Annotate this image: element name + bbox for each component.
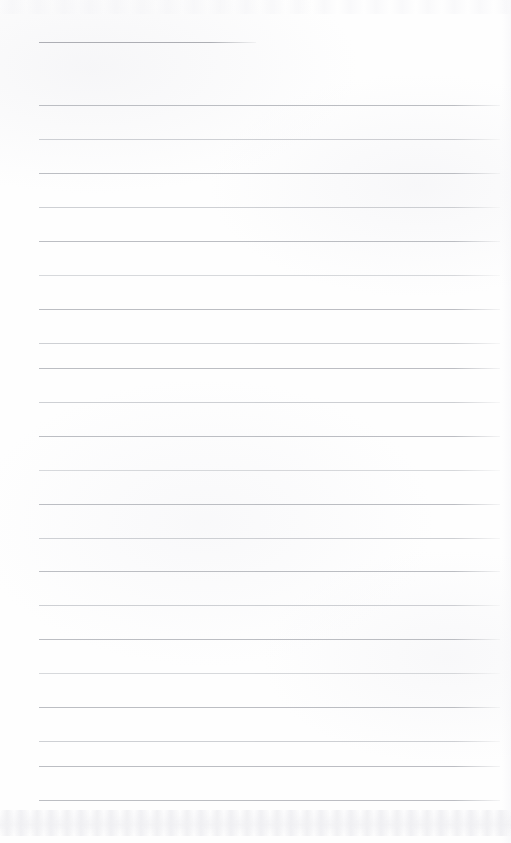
ruled-line-7 [39,275,500,276]
ruled-line-5 [39,207,500,208]
ruled-line-6 [39,241,500,242]
heading-rule-line [39,42,256,43]
ruled-line-16 [39,571,500,572]
ruled-line-17 [39,605,500,606]
bottom-scan-noise [0,810,511,836]
ruled-line-19 [39,673,500,674]
ruled-line-23 [39,800,500,801]
ruled-line-12 [39,436,500,437]
ruled-line-2 [39,105,500,106]
ruled-line-21 [39,741,500,742]
ruled-line-13 [39,470,500,471]
right-edge-shading [502,0,511,843]
ruled-line-3 [39,139,500,140]
scanned-page [0,0,511,843]
ruled-line-22 [39,766,500,767]
ruled-line-20 [39,707,500,708]
ruled-line-8 [39,309,500,310]
ruled-line-15 [39,538,500,539]
ruled-line-9 [39,343,500,344]
ruled-line-4 [39,173,500,174]
ruled-line-14 [39,504,500,505]
ruled-line-18 [39,639,500,640]
ruled-line-10 [39,368,500,369]
ruled-lines-layer [0,0,511,843]
ruled-line-11 [39,402,500,403]
